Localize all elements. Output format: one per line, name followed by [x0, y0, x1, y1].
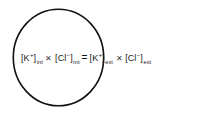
multiply-operator-right: ✕	[116, 51, 123, 67]
species-label-cl-ext: Cl	[128, 53, 137, 63]
subscript-ext-cl: ext	[143, 59, 151, 65]
term-potassium-external: [K+]ext	[90, 50, 113, 66]
equals-sign: =	[82, 50, 88, 66]
species-label-k-int: K	[24, 53, 30, 63]
subscript-int-k: int	[37, 59, 43, 65]
multiply-operator-left: ✕	[45, 51, 52, 67]
species-label-cl-int: Cl	[58, 53, 67, 63]
donnan-equation: [K+]int✕[Cl−]int=[K+]ext✕[Cl−]ext	[21, 50, 193, 66]
donnan-equilibrium-figure: [K+]int✕[Cl−]int=[K+]ext✕[Cl−]ext	[0, 0, 199, 115]
subscript-ext-k: ext	[105, 59, 113, 65]
close-bracket: ]	[34, 53, 37, 63]
subscript-int-cl: int	[73, 59, 79, 65]
term-chloride-internal: [Cl−]int	[55, 50, 80, 66]
term-potassium-internal: [K+]int	[21, 50, 43, 66]
term-chloride-external: [Cl−]ext	[125, 50, 151, 66]
